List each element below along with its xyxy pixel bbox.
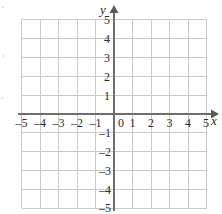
coordinate-grid-svg: y x 0 –5 –4 –3 –2 –1 1 2 3 4 5 1 2 3 4 5 (0, 0, 222, 214)
y-tick-label: 3 (104, 51, 110, 65)
y-axis (110, 5, 119, 211)
y-tick-label: 2 (104, 70, 110, 84)
y-tick-label: –3 (98, 164, 111, 178)
origin-label: 0 (118, 116, 124, 130)
x-tick-label: –4 (33, 116, 46, 130)
y-axis-negative-tick-labels: –1 –2 –3 –4 –5 (98, 126, 111, 214)
x-tick-label: –3 (52, 116, 65, 130)
x-tick-label: –5 (15, 116, 28, 130)
y-tick-label: 1 (104, 89, 110, 103)
x-tick-label: 3 (167, 116, 173, 130)
x-axis-positive-tick-labels: 1 2 3 4 5 (130, 116, 210, 130)
x-tick-label: 4 (185, 116, 191, 130)
y-tick-label: –1 (98, 126, 111, 140)
y-tick-label: 5 (104, 13, 110, 27)
x-tick-label: –2 (70, 116, 83, 130)
x-tick-label: 1 (130, 116, 136, 130)
y-tick-label: –4 (98, 183, 111, 197)
y-tick-label: 4 (104, 32, 110, 46)
y-axis-positive-tick-labels: 1 2 3 4 5 (104, 13, 110, 103)
x-axis-negative-tick-labels: –5 –4 –3 –2 –1 (15, 116, 102, 130)
coordinate-plane-figure: y x 0 –5 –4 –3 –2 –1 1 2 3 4 5 1 2 3 4 5 (0, 0, 222, 214)
y-tick-label: –2 (98, 145, 111, 159)
x-tick-label: 5 (203, 116, 209, 130)
y-tick-label: –5 (98, 201, 111, 214)
scan-artifacts (1, 6, 4, 99)
x-tick-label: 2 (148, 116, 154, 130)
x-axis-letter: x (210, 113, 217, 128)
